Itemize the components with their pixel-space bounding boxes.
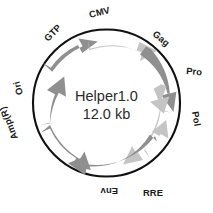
feature-label-pol: Pol bbox=[190, 110, 203, 127]
plasmid-name: Helper1.0 bbox=[75, 88, 138, 104]
feature-label-rre: RRE bbox=[143, 187, 163, 198]
feature-arrow-ori bbox=[41, 76, 66, 125]
feature-label-ori: Ori bbox=[11, 80, 25, 96]
feature-arrow-env bbox=[68, 134, 157, 175]
feature-label-gtp: GTP bbox=[42, 22, 64, 44]
feature-label-ampr: Amp(R) bbox=[0, 105, 20, 141]
plasmid-size: 12.0 kb bbox=[83, 106, 131, 122]
plasmid-diagram: GTP CMV Gag Pro Pol RRE Env Amp(R) Ori H… bbox=[0, 0, 213, 213]
feature-label-cmv: CMV bbox=[88, 4, 112, 20]
feature-label-env: Env bbox=[100, 186, 118, 197]
feature-label-pro: Pro bbox=[186, 65, 203, 77]
plasmid-map: GTP CMV Gag Pro Pol RRE Env Amp(R) Ori H… bbox=[0, 0, 213, 213]
